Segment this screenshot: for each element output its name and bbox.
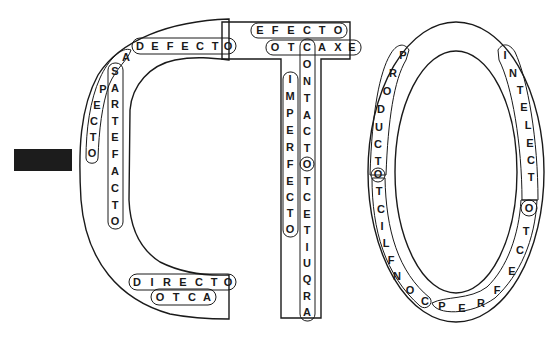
puzzle-letter: T [520, 225, 532, 238]
puzzle-letter: N [507, 67, 519, 80]
puzzle-letter: Q [301, 273, 313, 286]
puzzle-letter: T [284, 207, 296, 220]
puzzle-letter: C [301, 41, 313, 54]
puzzle-letter: I [301, 241, 313, 254]
puzzle-letter: T [87, 131, 99, 144]
puzzle-letter: T [208, 276, 220, 289]
puzzle-letter: R [387, 67, 399, 80]
puzzle-letter: P [284, 107, 296, 120]
puzzle-letter: E [284, 124, 296, 137]
puzzle-letter: P [97, 83, 109, 96]
puzzle-letter: O [301, 158, 313, 171]
puzzle-letter: E [506, 265, 518, 278]
puzzle-letter: E [109, 131, 121, 144]
puzzle-letter: E [285, 24, 297, 37]
puzzle-letter: A [201, 291, 213, 304]
puzzle-letter: C [301, 125, 313, 138]
puzzle-letter: T [525, 171, 537, 184]
puzzle-letter: T [209, 40, 221, 53]
puzzle-letter: T [301, 175, 313, 188]
puzzle-letter: F [164, 40, 176, 53]
puzzle-letter: A [301, 109, 313, 122]
puzzle-letter: R [284, 141, 296, 154]
puzzle-letter: C [419, 295, 431, 308]
puzzle-letter: F [269, 24, 281, 37]
puzzle-letter: L [380, 237, 392, 250]
puzzle-letter: E [179, 40, 191, 53]
puzzle-letter: N [391, 270, 403, 283]
puzzle-letter: C [186, 291, 198, 304]
puzzle-letter: E [254, 24, 266, 37]
puzzle-letter: C [375, 203, 387, 216]
puzzle-letter: E [346, 41, 358, 54]
puzzle-letter: O [109, 215, 121, 228]
puzzle-letter: L [522, 119, 534, 132]
puzzle-letter: A [109, 165, 121, 178]
puzzle-letter: T [301, 92, 313, 105]
puzzle-letter: T [514, 84, 526, 97]
puzzle-letter: O [372, 168, 384, 181]
puzzle-letter: F [491, 284, 503, 297]
puzzle-letter: O [284, 223, 296, 236]
puzzle-letter: A [301, 306, 313, 319]
puzzle-letter: T [373, 185, 385, 198]
puzzle-letter: O [301, 58, 313, 71]
redaction-block [14, 149, 72, 171]
puzzle-letter: E [149, 40, 161, 53]
puzzle-letter: E [91, 99, 103, 112]
puzzle-letter: F [109, 148, 121, 161]
puzzle-letter: I [284, 73, 296, 86]
puzzle-letter: R [161, 276, 173, 289]
puzzle-letter: F [284, 158, 296, 171]
puzzle-letter: C [525, 154, 537, 167]
puzzle-letter: O [86, 147, 98, 160]
puzzle-letter: O [381, 85, 393, 98]
puzzle-letter: T [170, 291, 182, 304]
puzzle-letter: E [524, 137, 536, 150]
puzzle-letter: E [456, 302, 468, 315]
puzzle-letter: N [301, 75, 313, 88]
puzzle-letter: O [523, 202, 535, 215]
puzzle-letter: R [109, 98, 121, 111]
puzzle-letter: C [193, 276, 205, 289]
puzzle-letter: T [109, 199, 121, 212]
puzzle-letter: D [131, 276, 143, 289]
puzzle-letter: R [301, 290, 313, 303]
puzzle-letter: T [316, 24, 328, 37]
puzzle-letter: O [404, 284, 416, 297]
puzzle-letter: U [373, 121, 385, 134]
puzzle-letter: T [372, 155, 384, 168]
puzzle-letter: C [284, 191, 296, 204]
puzzle-letter: C [372, 138, 384, 151]
puzzle-letter: S [109, 65, 121, 78]
puzzle-letter: C [301, 191, 313, 204]
puzzle-letter: I [376, 220, 388, 233]
puzzle-letter: A [109, 82, 121, 95]
puzzle-letter: E [284, 175, 296, 188]
puzzle-letter: C [194, 40, 206, 53]
puzzle-letter: O [332, 24, 344, 37]
puzzle-letter: T [301, 142, 313, 155]
puzzle-letter: M [284, 90, 296, 103]
letter-o-inner [395, 51, 517, 293]
puzzle-letter: X [332, 41, 344, 54]
puzzle-letter: A [120, 51, 132, 64]
puzzle-letter: D [134, 40, 146, 53]
puzzle-letter: I [499, 49, 511, 62]
puzzle-letter: C [88, 115, 100, 128]
puzzle-letter: D [375, 103, 387, 116]
puzzle-letter: P [397, 49, 409, 62]
puzzle-letter: O [269, 41, 281, 54]
puzzle-letter: P [436, 300, 448, 313]
word-puzzle-canvas: DEFECTOASPECTOARTEFACTODIRECTOOTCAEFECTO… [0, 0, 560, 338]
puzzle-letter: R [475, 297, 487, 310]
puzzle-letter: O [154, 291, 166, 304]
puzzle-letter: E [301, 208, 313, 221]
puzzle-letter: C [301, 24, 313, 37]
puzzle-letter: O [222, 40, 234, 53]
puzzle-letter: A [316, 41, 328, 54]
puzzle-letter: E [177, 276, 189, 289]
puzzle-letter: C [514, 244, 526, 257]
puzzle-letter: E [518, 101, 530, 114]
puzzle-letter: C [109, 182, 121, 195]
